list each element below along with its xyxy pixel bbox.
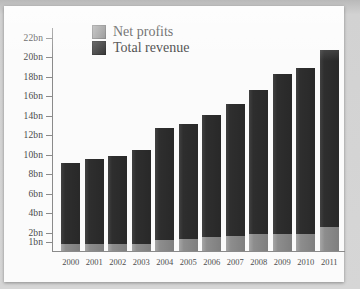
x-tick-label: 2008 (250, 257, 267, 267)
bar-segment-total-revenue (155, 128, 174, 240)
bar-group (53, 28, 342, 251)
y-tick (46, 116, 53, 117)
y-tick (46, 233, 53, 234)
x-tick-label: 2010 (297, 257, 314, 267)
bar-segment-total-revenue (108, 156, 127, 245)
chart-screenshot: Net profits Total revenue 1bn2bn4bn6bn8b… (0, 0, 360, 289)
bar-segment-total-revenue (85, 159, 104, 244)
bar-segment-total-revenue (202, 115, 221, 238)
y-tick-label: 8bn (28, 169, 43, 179)
bar-segment-net-profits (296, 234, 315, 251)
bar-segment-net-profits (108, 244, 127, 251)
y-tick (46, 77, 53, 78)
bar-2009 (273, 74, 292, 251)
bar-2003 (132, 150, 151, 251)
x-tick-label: 2004 (156, 257, 173, 267)
bar-2000 (61, 163, 80, 251)
bar-segment-net-profits (320, 227, 339, 251)
bar-segment-net-profits (61, 244, 80, 251)
bar-segment-net-profits (249, 234, 268, 251)
bar-2007 (226, 104, 245, 251)
bar-segment-net-profits (226, 236, 245, 251)
bar-2010 (296, 68, 315, 251)
bar-2011 (320, 50, 339, 251)
y-tick-label: 16bn (24, 91, 43, 101)
x-tick-label: 2011 (321, 257, 338, 267)
x-tick-label: 2005 (180, 257, 197, 267)
bar-2004 (155, 128, 174, 251)
bar-segment-net-profits (132, 244, 151, 251)
y-tick (46, 194, 53, 195)
bar-segment-total-revenue (179, 124, 198, 239)
y-tick-label: 10bn (24, 150, 43, 160)
bar-segment-net-profits (202, 237, 221, 251)
bar-2001 (85, 159, 104, 251)
x-tick-label: 2009 (274, 257, 291, 267)
chart-card: Net profits Total revenue 1bn2bn4bn6bn8b… (4, 6, 344, 282)
x-tick-label: 2007 (227, 257, 244, 267)
y-tick (46, 242, 53, 243)
y-tick-label: 20bn (24, 52, 43, 62)
x-tick-label: 2001 (86, 257, 103, 267)
bar-segment-total-revenue (249, 90, 268, 234)
y-tick (46, 96, 53, 97)
y-tick-label: 1bn (28, 237, 43, 247)
y-tick (46, 174, 53, 175)
x-tick-label: 2000 (62, 257, 79, 267)
bar-segment-net-profits (273, 234, 292, 251)
x-tick-label: 2002 (109, 257, 126, 267)
bar-segment-total-revenue (132, 150, 151, 244)
y-tick-label: 14bn (24, 111, 43, 121)
y-tick (46, 155, 53, 156)
plot-area: 1bn2bn4bn6bn8bn10bn12bn14bn16bn18bn20bn2… (52, 28, 342, 252)
y-tick-label: 22bn (24, 33, 43, 43)
bar-segment-net-profits (85, 244, 104, 251)
bar-segment-total-revenue (61, 163, 80, 244)
y-tick-label: 6bn (28, 189, 43, 199)
x-tick-label: 2006 (203, 257, 220, 267)
y-tick-label: 12bn (24, 130, 43, 140)
bar-2005 (179, 124, 198, 251)
x-tick-label: 2003 (133, 257, 150, 267)
y-tick-label: 2bn (28, 228, 43, 238)
bar-segment-total-revenue (273, 74, 292, 235)
bar-segment-total-revenue (320, 50, 339, 226)
y-tick (46, 213, 53, 214)
bar-segment-net-profits (179, 239, 198, 251)
bar-2008 (249, 90, 268, 251)
y-tick (46, 38, 53, 39)
bar-segment-total-revenue (296, 68, 315, 235)
y-tick-label: 18bn (24, 72, 43, 82)
y-tick (46, 135, 53, 136)
bar-segment-net-profits (155, 240, 174, 251)
bar-segment-total-revenue (226, 104, 245, 236)
bar-2006 (202, 115, 221, 251)
y-tick (46, 57, 53, 58)
x-axis-line (52, 251, 345, 252)
y-tick-label: 4bn (28, 208, 43, 218)
bar-2002 (108, 156, 127, 251)
